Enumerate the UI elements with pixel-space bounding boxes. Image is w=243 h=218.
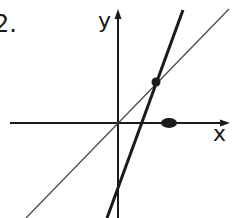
problem-number: 2. (0, 12, 17, 36)
y-axis-arrow-icon (115, 9, 122, 19)
x-axis-point (161, 118, 177, 128)
coordinate-diagram: 2. y x (0, 0, 243, 218)
x-axis-label: x (213, 123, 226, 145)
diagram-canvas (0, 0, 243, 218)
intersection-point (152, 78, 161, 87)
line-y-equals-x (26, 9, 229, 218)
y-axis-label: y (98, 10, 111, 32)
